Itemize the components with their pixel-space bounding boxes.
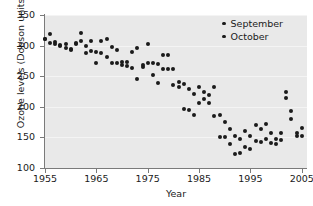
data-point: [300, 134, 304, 138]
legend-label: September: [231, 19, 284, 29]
y-tick: [40, 76, 44, 77]
data-point: [156, 81, 160, 85]
data-point: [223, 120, 227, 124]
data-point: [187, 87, 191, 91]
data-point: [69, 47, 73, 51]
data-point: [202, 90, 206, 94]
legend-item-september: September: [222, 17, 306, 30]
x-tick-label: 1995: [230, 174, 270, 184]
data-point: [223, 135, 227, 139]
data-point: [125, 60, 129, 64]
data-point: [105, 37, 109, 41]
data-point: [243, 145, 247, 149]
data-point: [269, 141, 273, 145]
data-point: [48, 41, 52, 45]
y-tick: [40, 107, 44, 108]
data-point: [218, 135, 222, 139]
gridline: [45, 76, 307, 77]
data-point: [115, 61, 119, 65]
data-point: [110, 61, 114, 65]
gridline: [45, 15, 307, 16]
data-point: [300, 126, 304, 130]
legend-label: October: [231, 32, 269, 42]
data-point: [141, 65, 145, 69]
data-point: [238, 137, 242, 141]
data-point: [254, 139, 258, 143]
x-tick-label: 1965: [76, 174, 116, 184]
legend-item-october: October: [222, 30, 306, 43]
data-point: [192, 92, 196, 96]
y-tick: [40, 168, 44, 169]
data-point: [202, 97, 206, 101]
data-point: [259, 140, 263, 144]
data-point: [295, 134, 299, 138]
data-point: [177, 80, 181, 84]
y-tick-label: 100: [0, 163, 38, 173]
data-point: [182, 107, 186, 111]
data-point: [166, 53, 170, 57]
dot-marker-icon: [222, 22, 226, 26]
legend: September October: [222, 17, 306, 43]
data-point: [64, 46, 68, 50]
data-point: [151, 61, 155, 65]
data-point: [264, 122, 268, 126]
data-point: [156, 62, 160, 66]
y-tick: [40, 137, 44, 138]
x-tick-label: 1985: [179, 174, 219, 184]
dot-marker-icon: [222, 35, 226, 39]
x-tick-label: 2005: [282, 174, 313, 184]
data-point: [151, 73, 155, 77]
data-point: [182, 82, 186, 86]
gridline: [45, 107, 307, 108]
x-tick-label: 1955: [25, 174, 65, 184]
data-point: [84, 51, 88, 55]
x-tick-label: 1975: [128, 174, 168, 184]
y-tick: [40, 46, 44, 47]
data-point: [43, 37, 47, 41]
data-point: [269, 131, 273, 135]
y-tick: [40, 15, 44, 16]
data-point: [177, 85, 181, 89]
data-point: [115, 48, 119, 52]
data-point: [254, 123, 258, 127]
data-point: [233, 152, 237, 156]
y-axis-title: Ozone levels (Dobson units): [15, 0, 26, 142]
data-point: [161, 67, 165, 71]
x-axis-title: Year: [45, 188, 307, 199]
data-point: [228, 142, 232, 146]
data-point: [105, 55, 109, 59]
x-axis-line: [44, 168, 307, 169]
data-point: [74, 42, 78, 46]
data-point: [84, 44, 88, 48]
ozone-levels-scatter-chart: 100150200250300350 195519651975198519952…: [0, 0, 313, 206]
